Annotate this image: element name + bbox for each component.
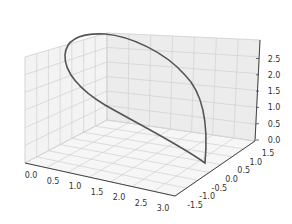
z-tick-label: 1.0 [268, 103, 281, 112]
z-tick-label: 0.5 [268, 120, 281, 129]
z-tick-label: 2.0 [268, 71, 281, 80]
y-tick-label: 1.5 [262, 149, 275, 158]
x-tick-label: 2.5 [135, 199, 148, 208]
x-tick-label: 1.0 [69, 182, 82, 191]
chart-canvas: 0.00.51.01.52.02.53.0 -1.5-1.0-0.50.00.5… [0, 0, 292, 224]
x-tick-label: 2.0 [113, 193, 126, 202]
y-tick-label: -1.5 [187, 201, 203, 210]
y-tick-label: -1.0 [199, 192, 215, 201]
z-tick-labels: 0.00.51.01.52.02.5 [268, 55, 281, 146]
z-tick-label: 2.5 [268, 55, 281, 64]
z-tick-label: 1.5 [268, 87, 281, 96]
y-tick-label: 0.5 [237, 166, 250, 175]
z-tick-label: 0.0 [268, 136, 281, 145]
x-tick-label: 0.5 [47, 177, 60, 186]
x-tick-label: 0.0 [25, 171, 38, 180]
x-tick-label: 1.5 [91, 188, 104, 197]
figure: 0.00.51.01.52.02.53.0 -1.5-1.0-0.50.00.5… [0, 0, 292, 224]
y-tick-label: 0.0 [225, 175, 238, 184]
x-tick-label: 3.0 [157, 204, 170, 213]
y-tick-label: -0.5 [212, 184, 228, 193]
y-tick-label: 1.0 [249, 158, 262, 167]
